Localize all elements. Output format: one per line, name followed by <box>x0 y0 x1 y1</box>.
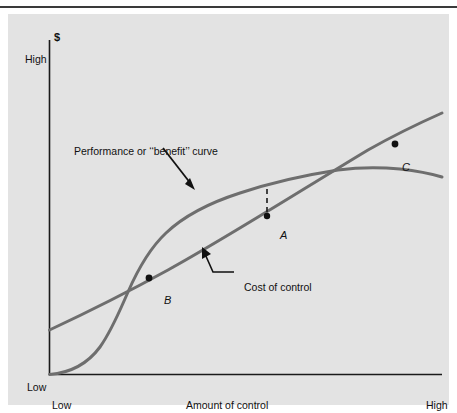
y-axis-high-label: High <box>25 54 47 65</box>
x-axis-high-label: High <box>426 400 448 411</box>
cost-annotation-leader <box>205 254 234 272</box>
x-axis-low-label: Low <box>52 400 71 411</box>
cost-of-control-annotation-label: Cost of control <box>244 282 312 293</box>
point-label-a: A <box>280 230 287 241</box>
point-label-c: C <box>402 162 410 173</box>
y-axis-unit-label: $ <box>54 32 60 43</box>
y-axis-low-label: Low <box>27 382 46 393</box>
figure-page: $ High Low Low Amount of control High Pe… <box>0 0 457 413</box>
x-axis-title: Amount of control <box>186 400 268 411</box>
point-marker-a <box>264 213 270 219</box>
point-marker-c <box>392 141 399 148</box>
benefit-curve <box>50 168 443 375</box>
chart-plot-area <box>8 14 449 405</box>
benefit-annotation-arrowhead <box>185 178 195 190</box>
top-horizontal-rule <box>0 6 457 8</box>
benefit-curve-annotation-label: Performance or ‘‘benefit’’ curve <box>74 146 218 157</box>
point-marker-b <box>146 275 153 282</box>
point-label-b: B <box>164 295 171 306</box>
chart-panel: $ High Low Low Amount of control High Pe… <box>8 14 449 405</box>
